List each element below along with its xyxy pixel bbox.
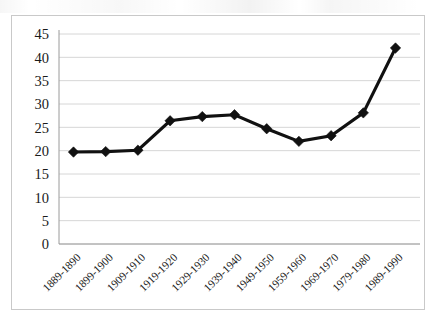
data-point-markers: [68, 43, 400, 157]
y-axis-tick-label: 35: [35, 73, 50, 89]
y-axis-tick-label: 0: [42, 236, 49, 252]
series-line-path: [73, 48, 395, 152]
gridlines-group: [59, 34, 420, 244]
y-axis-tick-label: 30: [35, 96, 50, 112]
data-point-marker: [294, 136, 304, 146]
y-axis-tick-label: 40: [35, 50, 50, 66]
y-axis-tick-label: 15: [35, 166, 50, 182]
data-point-marker: [68, 147, 78, 157]
data-point-marker: [229, 110, 239, 120]
chart-frame: 051015202530354045 1889-18901899-1900190…: [11, 15, 425, 310]
y-axis-tick-label: 20: [35, 143, 50, 159]
data-point-marker: [262, 124, 272, 134]
line-chart: 051015202530354045 1889-18901899-1900190…: [12, 16, 424, 309]
y-axis-tick-label: 5: [42, 213, 49, 229]
y-axis-tick-label: 45: [35, 26, 50, 42]
x-axis-tick-labels: 1889-18901899-19001909-19101919-19201929…: [40, 251, 405, 294]
scan-noise-band: [0, 0, 442, 13]
data-point-marker: [390, 43, 400, 53]
y-axis-tick-label: 10: [35, 190, 50, 206]
data-point-marker: [100, 146, 110, 156]
data-point-marker: [197, 111, 207, 121]
y-axis-tick-labels: 051015202530354045: [35, 26, 50, 252]
axis-lines-group: [59, 30, 420, 244]
y-axis-tick-label: 25: [35, 120, 50, 136]
data-series-group: [68, 43, 400, 157]
